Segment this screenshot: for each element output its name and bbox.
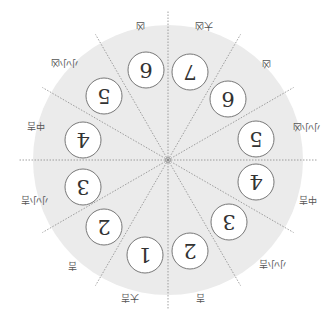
number-badge: 2 (86, 209, 122, 245)
sector-label: 中吉 (27, 120, 45, 133)
badge-number: 3 (76, 175, 89, 199)
number-badge: 6 (128, 52, 164, 88)
sector-label: 中吉 (299, 194, 317, 207)
badge-number: 2 (97, 215, 110, 239)
badge-number: 2 (183, 239, 196, 263)
number-badge: 3 (65, 169, 101, 205)
badge-number: 5 (97, 84, 110, 108)
number-badge: 6 (210, 81, 246, 117)
sector-label: 小小凶 (51, 57, 78, 70)
badge-number: 5 (249, 127, 262, 151)
number-badge: 5 (238, 121, 274, 157)
sector-label: 小小凶 (293, 121, 320, 134)
sector-label: 小小吉 (21, 194, 48, 207)
number-badge: 7 (172, 54, 208, 90)
number-badge: 1 (127, 237, 163, 273)
badge-number: 4 (76, 128, 89, 152)
number-badge: 4 (238, 164, 274, 200)
sector-label: 凶 (262, 58, 271, 71)
fortune-wheel-diagram: 765432123456 (0, 0, 335, 320)
badge-number: 6 (221, 87, 234, 111)
badge-number: 1 (138, 243, 151, 267)
sector-label: 小小吉 (259, 258, 286, 271)
sector-label: 大凶 (195, 20, 213, 33)
badge-number: 7 (183, 60, 196, 84)
badge-number: 3 (222, 210, 235, 234)
number-badge: 3 (211, 204, 247, 240)
badge-number: 4 (249, 170, 262, 194)
badge-number: 6 (139, 58, 152, 82)
sector-label: 凶 (136, 20, 145, 33)
sector-label: 吉 (196, 292, 205, 305)
number-badge: 4 (65, 122, 101, 158)
sector-label: 大吉 (121, 292, 139, 305)
number-badge: 2 (172, 233, 208, 269)
number-badge: 5 (86, 78, 122, 114)
sector-label: 吉 (68, 260, 77, 273)
